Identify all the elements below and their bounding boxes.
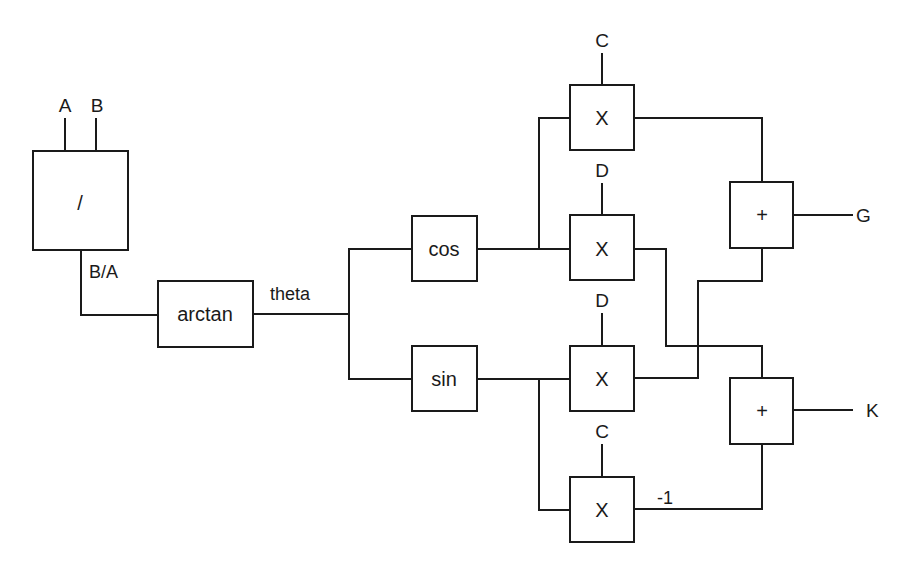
input-b-label: B <box>91 95 104 116</box>
input-d-upper-label: D <box>595 160 609 181</box>
input-c-top-label: C <box>595 30 609 51</box>
multiplier-2: X <box>570 215 634 280</box>
wire-ratio <box>81 250 158 315</box>
arctan-label: arctan <box>177 303 233 325</box>
adder-g-label: + <box>756 204 768 226</box>
output-g-label: G <box>856 205 871 226</box>
wire-cos-mult1 <box>539 118 570 249</box>
neg-one-label: -1 <box>657 488 673 508</box>
sin-label: sin <box>431 368 457 390</box>
adder-k-label: + <box>756 400 768 422</box>
wire-mult1-adder-g <box>634 118 762 182</box>
multiplier-3: X <box>570 346 634 411</box>
wire-mult4-adder-k <box>634 444 762 509</box>
adder-k: + <box>730 378 793 444</box>
sin-block: sin <box>412 346 477 411</box>
arctan-block: arctan <box>158 281 253 347</box>
wire-mult3-adder-g <box>634 248 762 378</box>
multiplier-1-label: X <box>595 107 608 129</box>
output-k-label: K <box>866 400 879 421</box>
block-diagram: / arctan cos sin X X X X + + A B B/A the <box>0 0 915 569</box>
multiplier-1: X <box>570 85 634 150</box>
wire-sin-mult4 <box>539 379 570 510</box>
adder-g: + <box>730 182 793 248</box>
divide-label: / <box>77 192 83 214</box>
input-c-bottom-label: C <box>595 421 609 442</box>
divide-block: / <box>33 151 128 250</box>
multiplier-2-label: X <box>595 238 608 260</box>
cos-label: cos <box>428 238 459 260</box>
input-d-lower-label: D <box>595 290 609 311</box>
wire-theta-cos <box>349 249 412 379</box>
input-a-label: A <box>59 95 72 116</box>
ratio-label: B/A <box>89 262 118 282</box>
multiplier-3-label: X <box>595 368 608 390</box>
multiplier-4: X <box>570 477 634 542</box>
theta-label: theta <box>270 284 311 304</box>
cos-block: cos <box>412 216 477 281</box>
multiplier-4-label: X <box>595 499 608 521</box>
